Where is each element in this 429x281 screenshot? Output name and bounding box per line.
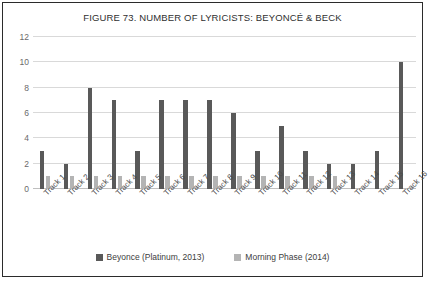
chart-legend: Beyonce (Platinum, 2013)Morning Phase (2…: [3, 252, 422, 262]
plot-area-wrapper: [33, 37, 416, 189]
y-axis-tick-label: 8: [24, 83, 29, 93]
bar-group: [368, 37, 392, 189]
y-axis-tick-label: 10: [20, 57, 29, 67]
bar-group: [272, 37, 296, 189]
plot-area: [33, 37, 416, 189]
legend-item-label: Beyonce (Platinum, 2013): [107, 252, 205, 262]
bar: [88, 88, 93, 189]
bar-group: [320, 37, 344, 189]
bar: [135, 151, 140, 189]
bar-group: [153, 37, 177, 189]
bar-group: [344, 37, 368, 189]
y-axis-tick-label: 2: [24, 159, 29, 169]
bar-group: [129, 37, 153, 189]
y-axis-tick-label: 12: [20, 32, 29, 42]
legend-item-label: Morning Phase (2014): [245, 252, 329, 262]
y-axis-tick-label: 6: [24, 108, 29, 118]
legend-item[interactable]: Beyonce (Platinum, 2013): [96, 252, 205, 262]
bar-group: [177, 37, 201, 189]
x-axis: Track 1Track 2Track 3Track 4Track 5Track…: [33, 189, 416, 247]
y-axis: 024681012: [3, 37, 29, 189]
bar-group: [392, 37, 416, 189]
bar-group: [81, 37, 105, 189]
bar: [255, 151, 260, 189]
bars-layer: [33, 37, 416, 189]
y-axis-tick-label: 0: [24, 184, 29, 194]
bar-group: [57, 37, 81, 189]
y-axis-tick-label: 4: [24, 133, 29, 143]
bar: [40, 151, 45, 189]
legend-swatch-icon: [96, 254, 103, 261]
chart-title: FIGURE 73. NUMBER OF LYRICISTS: BEYONCÉ …: [3, 12, 422, 23]
bar-group: [33, 37, 57, 189]
legend-item[interactable]: Morning Phase (2014): [234, 252, 329, 262]
chart-container: FIGURE 73. NUMBER OF LYRICISTS: BEYONCÉ …: [2, 2, 423, 277]
bar-group: [225, 37, 249, 189]
bar-group: [248, 37, 272, 189]
bar-group: [201, 37, 225, 189]
legend-swatch-icon: [234, 254, 241, 261]
bar-group: [105, 37, 129, 189]
bar-group: [296, 37, 320, 189]
